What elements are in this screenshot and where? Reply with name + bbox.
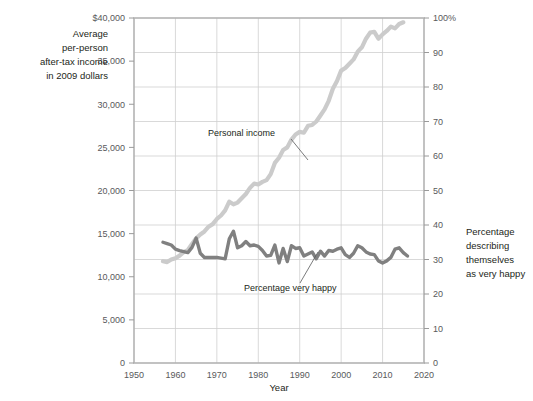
x-axis-title: Year [269, 382, 288, 393]
x-tick-label: 2000 [331, 370, 351, 380]
chart-figure: 05,00010,00015,00020,00025,00030,00035,0… [0, 0, 533, 401]
income-annotation-label: Personal income [208, 128, 275, 138]
right-axis-title-line-2: describing [466, 240, 509, 251]
left-tick-label: 20,000 [97, 186, 125, 196]
x-axis-tick-labels: 19501960197019801990200020102020 [124, 370, 434, 380]
right-axis-title-line-3: themselves [466, 254, 514, 265]
x-tick-label: 1980 [248, 370, 268, 380]
chart-svg: 05,00010,00015,00020,00025,00030,00035,0… [0, 0, 533, 401]
left-tick-label: 0 [120, 358, 125, 368]
left-axis-title-line-3: after-tax income [40, 56, 108, 67]
left-axis-title-line-4: in 2009 dollars [46, 70, 108, 81]
x-tick-label: 2010 [373, 370, 393, 380]
x-tick-label: 1950 [124, 370, 144, 380]
right-tick-label: 60 [433, 151, 443, 161]
right-tick-label: 90 [433, 48, 443, 58]
left-tick-label: $40,000 [92, 13, 125, 23]
left-tick-label: 10,000 [97, 272, 125, 282]
right-axis-tick-labels: 0102030405060708090100% [433, 13, 456, 368]
x-tick-label: 2020 [414, 370, 434, 380]
right-axis-title-line-1: Percentage [466, 226, 515, 237]
right-tick-label: 30 [433, 255, 443, 265]
left-axis-title-line-2: per-person [62, 42, 108, 53]
left-tick-label: 25,000 [97, 143, 125, 153]
right-tick-label: 0 [433, 358, 438, 368]
left-tick-label: 15,000 [97, 229, 125, 239]
x-tick-label: 1960 [165, 370, 185, 380]
right-axis-title-line-4: as very happy [466, 268, 525, 279]
right-tick-label: 50 [433, 186, 443, 196]
right-tick-label: 70 [433, 117, 443, 127]
left-axis-title-line-1: Average [73, 28, 108, 39]
right-tick-label: 100% [433, 13, 456, 23]
left-tick-label: 30,000 [97, 100, 125, 110]
right-tick-label: 20 [433, 289, 443, 299]
x-tick-label: 1990 [290, 370, 310, 380]
right-tick-label: 80 [433, 82, 443, 92]
left-tick-label: 5,000 [102, 315, 125, 325]
happy-annotation-label: Percentage very happy [244, 283, 337, 293]
x-tick-label: 1970 [207, 370, 227, 380]
right-tick-label: 10 [433, 324, 443, 334]
right-tick-label: 40 [433, 220, 443, 230]
